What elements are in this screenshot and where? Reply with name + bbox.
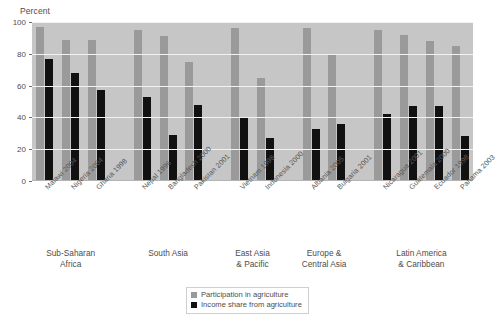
category-labels: Malawi 2004Nigeria 2004Ghana 1998Nepal 1…	[32, 182, 473, 244]
legend-label-income: Income share from agriculture	[201, 300, 302, 310]
gridline	[32, 86, 473, 87]
bar-participation	[303, 28, 311, 181]
gridline	[32, 54, 473, 55]
y-axis-tick	[29, 54, 32, 55]
region-label: Europe & Central Asia	[302, 248, 347, 269]
gridline	[32, 117, 473, 118]
legend-swatch-income	[191, 302, 197, 308]
bar-income-share	[312, 129, 320, 181]
region-label: East Asia & Pacific	[235, 248, 270, 269]
bar-income-share	[383, 114, 391, 181]
bar-participation	[134, 30, 142, 181]
y-axis-tick-label: 100	[4, 18, 26, 27]
y-axis-title: Percent	[20, 6, 50, 16]
legend-item-income: Income share from agriculture	[191, 300, 302, 310]
bar-income-share	[337, 124, 345, 181]
y-axis-tick	[29, 86, 32, 87]
region-labels: Sub-Saharan AfricaSouth AsiaEast Asia & …	[32, 248, 473, 280]
y-axis-tick-label: 40	[4, 113, 26, 122]
y-axis-tick	[29, 22, 32, 23]
y-axis-tick-label: 80	[4, 49, 26, 58]
y-axis-tick-label: 0	[4, 177, 26, 186]
y-axis-tick-label: 20	[4, 145, 26, 154]
y-axis-tick-label: 60	[4, 81, 26, 90]
gridline	[32, 22, 473, 23]
legend-swatch-participation	[191, 292, 197, 298]
region-label: South Asia	[148, 248, 188, 259]
y-axis-tick	[29, 149, 32, 150]
bar-participation	[36, 27, 44, 181]
legend-item-participation: Participation in agriculture	[191, 290, 302, 300]
region-label: Latin America & Caribbean	[396, 248, 446, 269]
bar-income-share	[194, 105, 202, 181]
legend-label-participation: Participation in agriculture	[201, 290, 288, 300]
region-label: Sub-Saharan Africa	[46, 248, 95, 269]
chart-legend: Participation in agriculture Income shar…	[186, 287, 309, 314]
y-axis-tick	[29, 117, 32, 118]
gridline	[32, 149, 473, 150]
bar-participation	[374, 30, 382, 181]
bar-income-share	[45, 59, 53, 181]
bar-income-share	[143, 97, 151, 181]
bar-participation	[231, 28, 239, 181]
